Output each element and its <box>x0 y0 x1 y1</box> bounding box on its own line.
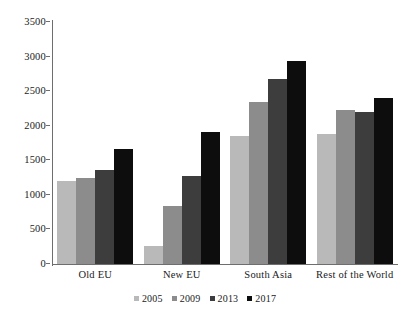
bar-groups <box>52 22 398 264</box>
y-tick-label: 0 <box>2 259 46 269</box>
y-tick-label: 3500 <box>2 17 46 27</box>
legend-swatch-icon <box>134 296 139 301</box>
bar <box>57 181 76 264</box>
bar <box>374 98 393 264</box>
bar-group <box>57 22 133 264</box>
bar <box>163 206 182 264</box>
bar <box>249 102 268 264</box>
y-tick-mark <box>46 125 50 126</box>
legend-swatch-icon <box>172 296 177 301</box>
x-category-label: Old EU <box>52 268 139 281</box>
y-tick-mark <box>46 56 50 57</box>
legend-label: 2013 <box>218 293 239 304</box>
y-tick-mark <box>46 90 50 91</box>
y-tick-mark <box>46 194 50 195</box>
legend-item[interactable]: 2013 <box>210 293 239 304</box>
bar <box>230 136 249 264</box>
legend-item[interactable]: 2017 <box>247 293 276 304</box>
x-axis-category-labels: Old EUNew EUSouth AsiaRest of the World <box>52 268 398 281</box>
bar-chart: 0500100015002000250030003500 Old EUNew E… <box>0 0 410 319</box>
y-tick-mark <box>46 263 50 264</box>
y-tick-label: 1500 <box>2 155 46 165</box>
plot-area <box>52 22 398 264</box>
x-category-label: Rest of the World <box>312 268 399 281</box>
y-axis-tick-labels: 0500100015002000250030003500 <box>0 0 46 319</box>
bar <box>336 110 355 264</box>
bar <box>287 61 306 264</box>
bar <box>201 132 220 264</box>
bar <box>76 178 95 264</box>
legend-swatch-icon <box>247 296 252 301</box>
legend-label: 2005 <box>142 293 163 304</box>
legend-label: 2009 <box>180 293 201 304</box>
legend-item[interactable]: 2009 <box>172 293 201 304</box>
bar <box>355 112 374 264</box>
bar <box>95 170 114 264</box>
chart-legend: 2005200920132017 <box>0 293 410 304</box>
y-tick-label: 500 <box>2 224 46 234</box>
x-category-label: South Asia <box>225 268 312 281</box>
y-tick-label: 2000 <box>2 121 46 131</box>
bar <box>317 134 336 264</box>
bar-group <box>230 22 306 264</box>
bar <box>114 149 133 264</box>
y-tick-label: 3000 <box>2 52 46 62</box>
x-axis-line <box>52 264 398 265</box>
y-tick-mark <box>46 21 50 22</box>
y-tick-label: 1000 <box>2 190 46 200</box>
y-tick-mark <box>46 159 50 160</box>
bar <box>268 79 287 264</box>
legend-item[interactable]: 2005 <box>134 293 163 304</box>
y-tick-label: 2500 <box>2 86 46 96</box>
legend-label: 2017 <box>255 293 276 304</box>
bar <box>182 176 201 264</box>
x-category-label: New EU <box>139 268 226 281</box>
bar-group <box>144 22 220 264</box>
y-tick-mark <box>46 228 50 229</box>
bar <box>144 246 163 264</box>
legend-swatch-icon <box>210 296 215 301</box>
bar-group <box>317 22 393 264</box>
